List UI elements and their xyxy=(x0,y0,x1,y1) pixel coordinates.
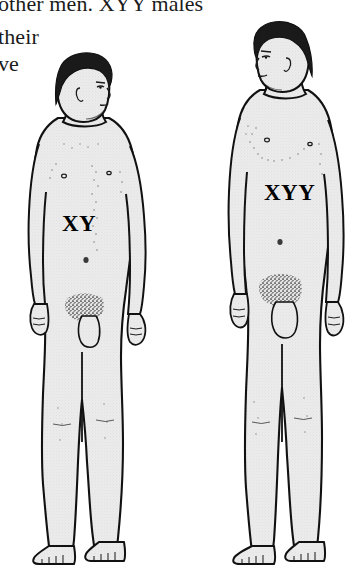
figure-xyy-brow xyxy=(261,51,271,52)
body-text-line-2: their xyxy=(0,24,39,50)
figure-xy-brow xyxy=(96,82,105,83)
figure-xyy-pupil xyxy=(265,56,267,58)
figure-xy-body-group xyxy=(29,53,146,564)
figure-xy-navel xyxy=(83,257,88,263)
figure-xyy-foot-right xyxy=(285,542,325,561)
chromosome-label-xyy: XYY xyxy=(264,180,315,206)
figure-xyy-arm-right xyxy=(324,120,344,302)
illustration-figure-xy xyxy=(8,52,184,568)
figure-xyy-foot-left xyxy=(233,546,275,564)
figure-xy-genitals xyxy=(78,316,99,347)
figure-xyy-hand-left xyxy=(230,294,248,327)
figure-xy-foot-right xyxy=(85,542,125,561)
figure-xyy-navel xyxy=(277,239,282,245)
figure-xyy-body-group xyxy=(229,22,344,564)
figure-xy-arm-right xyxy=(126,146,146,314)
body-text-line-1: other men. XYY males xyxy=(0,0,203,17)
figure-xyy-hand-right xyxy=(326,302,344,335)
scanned-page: other men. XYY males their ve xyxy=(0,0,361,576)
figure-xyy-genitals xyxy=(272,302,298,338)
chromosome-label-xy: XY xyxy=(62,211,96,237)
figure-xy-foot-left xyxy=(33,546,75,564)
figure-xy-pupil xyxy=(99,86,101,88)
illustration-figure-xyy xyxy=(214,18,361,566)
